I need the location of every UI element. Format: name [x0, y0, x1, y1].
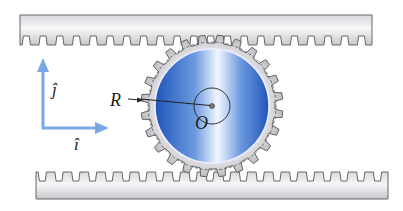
- center-label: O: [195, 113, 208, 133]
- diagram: R O ĵ î: [0, 0, 403, 211]
- j-axis-arrowhead: [37, 58, 49, 72]
- i-axis-arrowhead: [95, 122, 109, 134]
- radius-label: R: [109, 90, 121, 110]
- unit-axes: [37, 58, 109, 134]
- diagram-canvas: R O ĵ î: [0, 0, 403, 211]
- bottom-rack: [36, 172, 388, 199]
- center-point: [210, 104, 215, 109]
- top-rack: [20, 15, 372, 45]
- unit-j-label: ĵ: [50, 80, 58, 99]
- unit-i-label: î: [74, 135, 80, 154]
- gear: [141, 35, 283, 177]
